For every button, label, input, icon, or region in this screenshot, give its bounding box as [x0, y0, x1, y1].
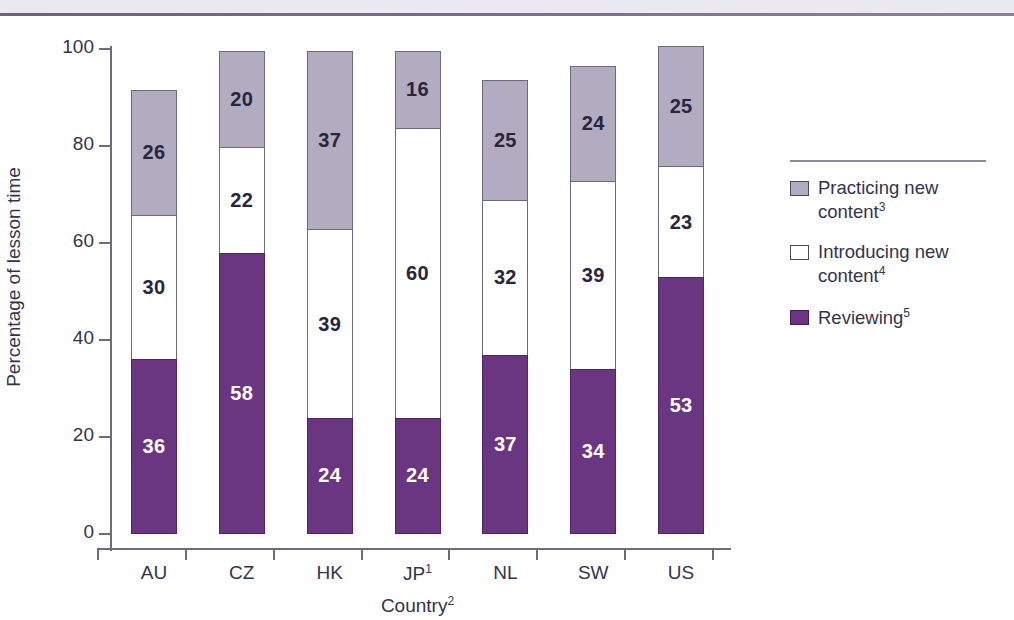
bar-value-label: 34	[582, 440, 605, 463]
x-axis-title-text: Country	[381, 595, 448, 616]
y-tick-label-60: 60	[40, 230, 94, 252]
x-tick-mark-1	[185, 549, 187, 560]
bar-value-label: 30	[142, 276, 165, 299]
bar-segment-reviewing-sw[interactable]: 34	[570, 369, 616, 534]
legend-label-note: 3	[879, 200, 886, 214]
x-tick-mark-7	[712, 549, 714, 560]
x-tick-label-text: NL	[493, 562, 517, 583]
x-tick-label-au: AU	[110, 562, 198, 584]
bar-segment-introducing-nl[interactable]: 32	[482, 200, 528, 355]
bar-value-label: 22	[230, 189, 253, 212]
y-tick-label-80: 80	[40, 133, 94, 155]
x-tick-label-text: HK	[316, 562, 342, 583]
x-tick-label-text: CZ	[229, 562, 254, 583]
bar-segment-introducing-us[interactable]: 23	[658, 166, 704, 278]
bar-segment-practicing-jp[interactable]: 16	[395, 51, 441, 129]
legend: Practicing new content3Introducing new c…	[790, 159, 990, 329]
bar-jp[interactable]: 166024	[395, 51, 441, 533]
x-tick-label-note: 1	[425, 562, 432, 576]
bar-value-label: 25	[670, 95, 693, 118]
plot-area: 2630362022583739241660242532372439342523…	[110, 48, 725, 533]
y-tick-mark-20	[99, 436, 110, 438]
bar-value-label: 24	[582, 112, 605, 135]
bar-cz[interactable]: 202258	[219, 51, 265, 533]
bar-segment-introducing-cz[interactable]: 22	[219, 147, 265, 254]
bar-segment-practicing-cz[interactable]: 20	[219, 51, 265, 148]
legend-swatch-icon	[790, 181, 809, 196]
bar-sw[interactable]: 243934	[570, 66, 616, 533]
x-tick-mark-0	[97, 549, 99, 560]
bar-segment-practicing-sw[interactable]: 24	[570, 66, 616, 182]
legend-swatch-icon	[790, 245, 809, 260]
bar-segment-introducing-sw[interactable]: 39	[570, 181, 616, 370]
y-tick-mark-80	[99, 145, 110, 147]
legend-item-introducing-new-content[interactable]: Introducing new content4	[790, 241, 990, 287]
legend-item-practicing-new-content[interactable]: Practicing new content3	[790, 177, 990, 223]
bar-us[interactable]: 252353	[658, 46, 704, 533]
x-tick-label-text: AU	[141, 562, 167, 583]
bar-value-label: 37	[494, 433, 517, 456]
y-tick-label-20: 20	[40, 424, 94, 446]
legend-swatch-icon	[790, 310, 809, 325]
bar-segment-introducing-au[interactable]: 30	[131, 215, 177, 361]
bar-segment-practicing-nl[interactable]: 25	[482, 80, 528, 201]
bar-segment-reviewing-hk[interactable]: 24	[307, 418, 353, 534]
x-tick-mark-6	[624, 549, 626, 560]
bar-segment-practicing-us[interactable]: 25	[658, 46, 704, 167]
x-tick-label-cz: CZ	[198, 562, 286, 584]
bar-value-label: 20	[230, 88, 253, 111]
x-tick-mark-5	[536, 549, 538, 560]
legend-label-note: 5	[903, 306, 910, 320]
y-tick-mark-40	[99, 339, 110, 341]
y-tick-label-100: 100	[40, 36, 94, 58]
bar-value-label: 25	[494, 129, 517, 152]
bar-segment-reviewing-cz[interactable]: 58	[219, 253, 265, 534]
bar-segment-introducing-jp[interactable]: 60	[395, 128, 441, 419]
x-axis-title-note: 2	[447, 594, 454, 608]
x-tick-label-us: US	[637, 562, 725, 584]
bar-value-label: 24	[318, 464, 341, 487]
stacked-bar-chart: 020406080100 AUCZHKJP1NLSWUS Percentage …	[0, 16, 1014, 620]
y-tick-mark-60	[99, 242, 110, 244]
page-top-band	[0, 0, 1014, 13]
y-tick-label-0: 0	[40, 521, 94, 543]
legend-label-note: 4	[879, 264, 886, 278]
bar-au[interactable]: 263036	[131, 90, 177, 533]
x-tick-label-text: US	[668, 562, 694, 583]
bar-segment-introducing-hk[interactable]: 39	[307, 229, 353, 418]
bar-value-label: 39	[582, 264, 605, 287]
legend-label: Introducing new content4	[818, 241, 978, 287]
bar-segment-practicing-au[interactable]: 26	[131, 90, 177, 216]
bar-segment-reviewing-nl[interactable]: 37	[482, 355, 528, 534]
bar-segment-practicing-hk[interactable]: 37	[307, 51, 353, 230]
legend-label: Practicing new content3	[818, 177, 978, 223]
bar-segment-reviewing-us[interactable]: 53	[658, 277, 704, 534]
x-axis-line	[97, 548, 731, 550]
bar-value-label: 32	[494, 266, 517, 289]
x-tick-label-sw: SW	[549, 562, 637, 584]
x-tick-label-text: JP	[403, 563, 425, 584]
y-tick-mark-0	[99, 533, 110, 535]
bar-value-label: 60	[406, 262, 429, 285]
bar-segment-reviewing-au[interactable]: 36	[131, 359, 177, 534]
bar-segment-reviewing-jp[interactable]: 24	[395, 418, 441, 534]
x-tick-mark-2	[273, 549, 275, 560]
x-tick-mark-4	[448, 549, 450, 560]
x-tick-label-nl: NL	[461, 562, 549, 584]
bar-value-label: 37	[318, 129, 341, 152]
bar-value-label: 58	[230, 382, 253, 405]
bar-value-label: 24	[406, 464, 429, 487]
bar-hk[interactable]: 373924	[307, 51, 353, 533]
bar-nl[interactable]: 253237	[482, 80, 528, 533]
y-tick-label-40: 40	[40, 327, 94, 349]
bar-value-label: 53	[670, 394, 693, 417]
bar-value-label: 26	[142, 141, 165, 164]
x-tick-mark-3	[361, 549, 363, 560]
bar-value-label: 23	[670, 211, 693, 234]
bar-value-label: 39	[318, 313, 341, 336]
x-axis-title: Country2	[110, 594, 725, 617]
legend-label: Reviewing5	[818, 306, 910, 330]
legend-item-reviewing[interactable]: Reviewing5	[790, 306, 990, 330]
x-tick-label-hk: HK	[286, 562, 374, 584]
legend-label-text: Reviewing	[818, 307, 903, 328]
